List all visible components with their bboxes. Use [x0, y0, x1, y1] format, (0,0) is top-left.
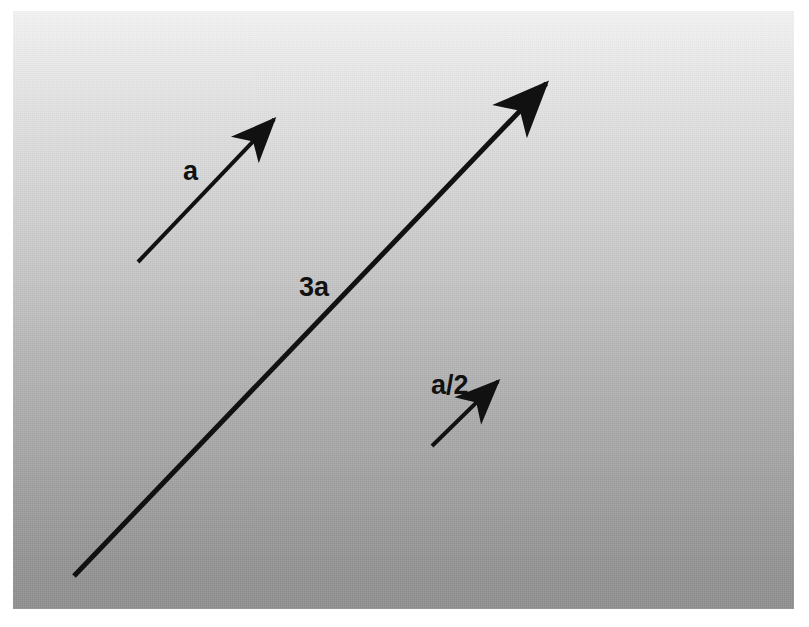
vector-a-arrow [138, 119, 274, 262]
figure-canvas: a 3a a/2 [0, 0, 809, 627]
vector-3a-arrow [74, 83, 546, 576]
vector-3a-label: 3a [299, 274, 329, 301]
vector-diagram [0, 0, 809, 627]
vector-a-label: a [183, 158, 198, 185]
vector-a-over-2-label: a/2 [431, 372, 469, 399]
